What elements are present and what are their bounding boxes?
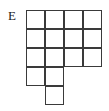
grid-cell bbox=[45, 86, 64, 105]
grid-cell bbox=[26, 10, 45, 29]
figure-label: E bbox=[8, 9, 16, 22]
grid-cell bbox=[45, 10, 64, 29]
polyomino-grid bbox=[26, 10, 102, 104]
grid-cell bbox=[83, 29, 102, 48]
grid-cell bbox=[26, 29, 45, 48]
grid-cell bbox=[26, 48, 45, 67]
grid-cell bbox=[64, 48, 83, 67]
grid-cell bbox=[26, 67, 45, 86]
grid-cell bbox=[64, 29, 83, 48]
grid-cell bbox=[64, 10, 83, 29]
polyomino-figure: E bbox=[0, 0, 109, 111]
grid-cell bbox=[83, 10, 102, 29]
grid-cell bbox=[45, 29, 64, 48]
grid-cell bbox=[45, 67, 64, 86]
grid-cell bbox=[45, 48, 64, 67]
grid-cell bbox=[83, 48, 102, 67]
